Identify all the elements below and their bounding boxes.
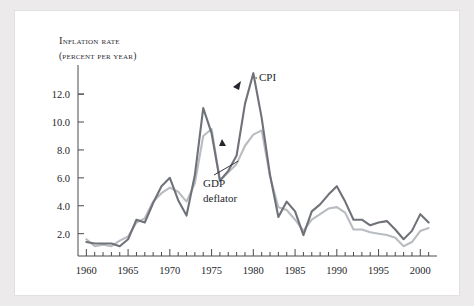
y-tick-label: 2.0 <box>57 229 70 240</box>
series-label-gdp-deflator-line1: GDP <box>203 177 225 189</box>
y-tick-label: 10.0 <box>52 117 70 128</box>
x-tick-label: 1960 <box>76 265 97 276</box>
gdp-leader-arrow <box>219 139 226 146</box>
y-tick-label: 4.0 <box>57 201 70 212</box>
y-tick-label: 6.0 <box>57 173 70 184</box>
cpi-leader-arrow <box>233 81 241 90</box>
x-tick-label: 2000 <box>410 265 431 276</box>
series-label-gdp-deflator-line2: deflator <box>203 192 237 204</box>
chart-figure: Inflation rate (percent per year) 2.04.0… <box>14 10 460 296</box>
series-line-cpi <box>86 73 428 246</box>
y-tick-label: 12.0 <box>52 89 70 100</box>
inflation-line-chart: 2.04.06.08.010.012.019601965197019751980… <box>15 11 461 297</box>
x-tick-label: 1990 <box>326 265 347 276</box>
x-tick-label: 1985 <box>285 265 306 276</box>
x-tick-label: 1975 <box>201 265 222 276</box>
series-line-gdp-deflator <box>86 129 428 246</box>
x-tick-label: 1965 <box>118 265 139 276</box>
x-tick-label: 1970 <box>159 265 180 276</box>
x-tick-label: 1995 <box>368 265 389 276</box>
series-label-cpi: CPI <box>259 71 276 83</box>
x-tick-label: 1980 <box>243 265 264 276</box>
y-tick-label: 8.0 <box>57 145 70 156</box>
